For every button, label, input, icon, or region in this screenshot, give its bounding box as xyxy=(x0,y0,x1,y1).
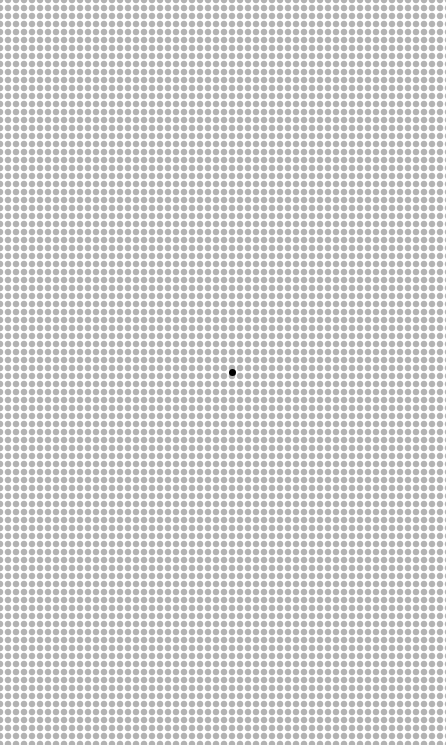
dot-grid-canvas xyxy=(0,0,446,745)
gray-dot-field xyxy=(0,0,446,745)
black-target-dot[interactable] xyxy=(229,369,236,376)
